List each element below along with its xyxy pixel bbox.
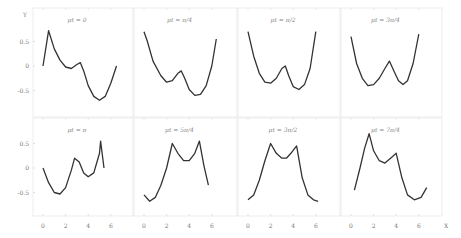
panel-title: μt = π — [67, 126, 87, 134]
x-axis-label: X — [444, 222, 449, 229]
x-tick-label: 6 — [417, 222, 421, 229]
x-tick-label: 2 — [64, 222, 68, 229]
panel-frame — [33, 8, 133, 117]
curve-line — [43, 31, 117, 101]
curve-line — [354, 134, 426, 200]
x-tick-label: 6 — [314, 222, 318, 229]
x-tick-label: 4 — [394, 222, 398, 229]
panel-title: μt = 3π/2 — [269, 126, 298, 134]
figure: μt = 0μt = π/4μt = π/2μt = 3π/4μt = π024… — [0, 0, 461, 238]
panel-title: μt = 7π/4 — [371, 126, 400, 134]
x-tick-label: 2 — [165, 222, 169, 229]
panel-title: μt = 3π/4 — [371, 16, 400, 24]
x-tick-label: 0 — [41, 222, 45, 229]
panel-title: μt = π/2 — [271, 16, 296, 24]
x-tick-label: 2 — [269, 222, 273, 229]
panel-title: μt = 5π/4 — [165, 126, 194, 134]
curve-line — [248, 32, 316, 90]
curve-line — [43, 141, 104, 194]
curve-line — [144, 141, 208, 201]
curve-line — [248, 144, 318, 202]
curve-line — [351, 34, 419, 86]
y-tick-label: -0.5 — [17, 87, 29, 94]
panel-labels: μt = 0μt = π/4μt = π/2μt = 3π/4μt = π024… — [17, 16, 420, 229]
y-tick-label: 0.5 — [19, 140, 29, 147]
curve-line — [144, 32, 216, 96]
panel-curves — [43, 31, 427, 202]
x-tick-label: 4 — [187, 222, 191, 229]
y-axis-label: Y — [22, 11, 28, 18]
x-tick-label: 2 — [372, 222, 376, 229]
panel-title: μt = π/4 — [167, 16, 192, 24]
y-tick-label: 0 — [25, 164, 29, 171]
x-tick-label: 4 — [86, 222, 90, 229]
y-tick-label: -0.5 — [17, 189, 29, 196]
panel-frames — [33, 8, 442, 216]
x-tick-label: 6 — [210, 222, 214, 229]
x-tick-label: 6 — [109, 222, 113, 229]
x-tick-label: 4 — [291, 222, 295, 229]
x-tick-label: 0 — [349, 222, 353, 229]
panel-frame — [134, 8, 237, 117]
y-tick-label: 0 — [25, 62, 29, 69]
x-tick-label: 0 — [246, 222, 250, 229]
panel-frame — [238, 8, 340, 117]
panel-title: μt = 0 — [68, 16, 87, 24]
y-tick-label: 0.5 — [19, 38, 29, 45]
x-tick-label: 0 — [142, 222, 146, 229]
